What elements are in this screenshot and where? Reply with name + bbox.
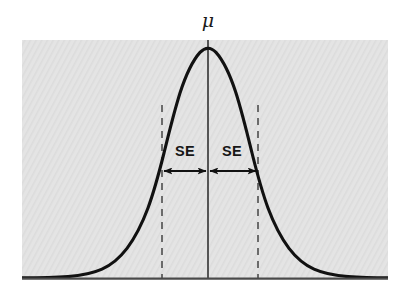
plot-panel <box>22 40 388 278</box>
se-label-right: SE <box>222 143 242 159</box>
mean-label: μ <box>202 9 214 31</box>
normal-curve-figure: μ SE SE <box>0 0 416 296</box>
se-label-left: SE <box>175 143 195 159</box>
standard-error-diagram: μ SE SE <box>0 0 416 296</box>
panel-background <box>22 40 388 278</box>
